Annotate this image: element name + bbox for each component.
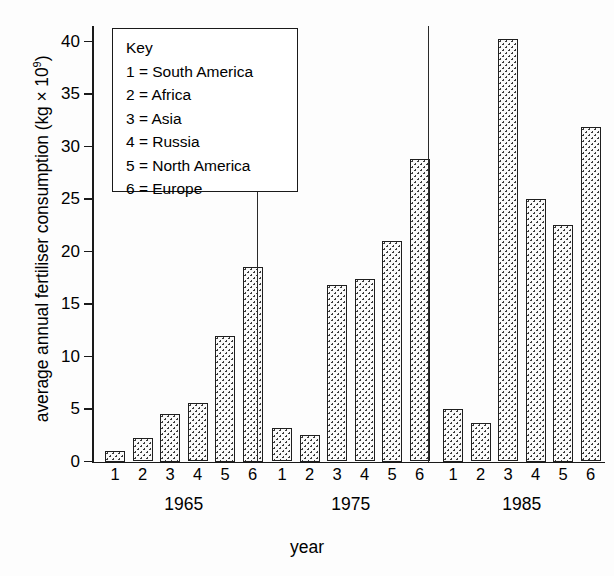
y-tick-35 bbox=[84, 93, 93, 95]
y-tick-5 bbox=[84, 408, 93, 410]
legend-item-4: 4 = Russia bbox=[126, 130, 297, 154]
y-tick-15 bbox=[84, 303, 93, 305]
legend-item-1: 1 = South America bbox=[126, 60, 297, 84]
year-label-1985: 1985 bbox=[462, 496, 582, 514]
x-tick-label-1975-1: 1 bbox=[271, 466, 293, 483]
legend-item-5: 5 = North America bbox=[126, 154, 297, 178]
bar-1975-2 bbox=[300, 435, 320, 461]
bar-chart: average annual fertiliser consumption (k… bbox=[0, 0, 614, 576]
bar-1975-6 bbox=[410, 159, 430, 461]
y-axis-line bbox=[92, 26, 94, 463]
group-separator-2 bbox=[428, 26, 429, 462]
y-tick-label-30: 30 bbox=[0, 138, 80, 155]
x-tick-label-1985-1: 1 bbox=[442, 466, 464, 483]
x-axis-line bbox=[92, 462, 605, 464]
y-tick-25 bbox=[84, 198, 93, 200]
bar-1965-5 bbox=[215, 336, 235, 462]
x-tick-label-1965-2: 2 bbox=[132, 466, 154, 483]
x-tick-label-1985-3: 3 bbox=[497, 466, 519, 483]
bar-1985-2 bbox=[471, 423, 491, 462]
bar-1985-6 bbox=[581, 127, 601, 462]
legend-item-3: 3 = Asia bbox=[126, 107, 297, 131]
y-tick-label-20: 20 bbox=[0, 243, 80, 260]
y-tick-10 bbox=[84, 356, 93, 358]
y-tick-0 bbox=[84, 461, 93, 463]
legend-heading: Key bbox=[126, 36, 297, 60]
x-axis-title: year bbox=[0, 537, 614, 558]
legend-item-2: 2 = Africa bbox=[126, 83, 297, 107]
x-tick-label-1985-4: 4 bbox=[525, 466, 547, 483]
bar-1985-1 bbox=[443, 409, 463, 462]
y-axis-title-paren: ) bbox=[32, 56, 52, 62]
y-tick-label-15: 15 bbox=[0, 295, 80, 312]
bar-1985-3 bbox=[498, 39, 518, 461]
group-separator-1 bbox=[257, 192, 258, 462]
bar-1985-4 bbox=[526, 199, 546, 462]
bar-1965-4 bbox=[188, 403, 208, 462]
y-tick-label-10: 10 bbox=[0, 348, 80, 365]
x-tick-label-1965-4: 4 bbox=[187, 466, 209, 483]
bar-1985-5 bbox=[553, 225, 573, 461]
bar-1975-1 bbox=[272, 428, 292, 462]
y-tick-label-0: 0 bbox=[0, 453, 80, 470]
y-tick-40 bbox=[84, 41, 93, 43]
x-tick-label-1965-6: 6 bbox=[242, 466, 264, 483]
bar-1965-2 bbox=[133, 438, 153, 461]
x-tick-label-1975-2: 2 bbox=[299, 466, 321, 483]
x-tick-label-1985-2: 2 bbox=[470, 466, 492, 483]
y-tick-label-5: 5 bbox=[0, 400, 80, 417]
y-tick-label-40: 40 bbox=[0, 33, 80, 50]
bar-1975-5 bbox=[382, 241, 402, 462]
y-axis-title-exponent: 9 bbox=[31, 61, 43, 67]
x-tick-label-1965-3: 3 bbox=[159, 466, 181, 483]
bar-1965-1 bbox=[105, 451, 125, 462]
x-tick-label-1975-5: 5 bbox=[381, 466, 403, 483]
y-tick-30 bbox=[84, 146, 93, 148]
bar-1975-4 bbox=[355, 279, 375, 462]
bar-1975-3 bbox=[327, 285, 347, 461]
y-tick-label-25: 25 bbox=[0, 190, 80, 207]
x-tick-label-1975-3: 3 bbox=[326, 466, 348, 483]
x-tick-label-1985-5: 5 bbox=[552, 466, 574, 483]
y-tick-20 bbox=[84, 251, 93, 253]
x-tick-label-1975-6: 6 bbox=[409, 466, 431, 483]
x-tick-label-1985-6: 6 bbox=[580, 466, 602, 483]
x-tick-label-1975-4: 4 bbox=[354, 466, 376, 483]
y-tick-label-35: 35 bbox=[0, 85, 80, 102]
legend-key-box: Key 1 = South America 2 = Africa 3 = Asi… bbox=[112, 28, 298, 192]
bar-1965-6 bbox=[243, 267, 263, 461]
bar-1965-3 bbox=[160, 414, 180, 461]
x-tick-label-1965-1: 1 bbox=[104, 466, 126, 483]
year-label-1975: 1975 bbox=[291, 496, 411, 514]
year-label-1965: 1965 bbox=[124, 496, 244, 514]
legend-item-6: 6 = Europe bbox=[126, 177, 297, 201]
x-tick-label-1965-5: 5 bbox=[214, 466, 236, 483]
